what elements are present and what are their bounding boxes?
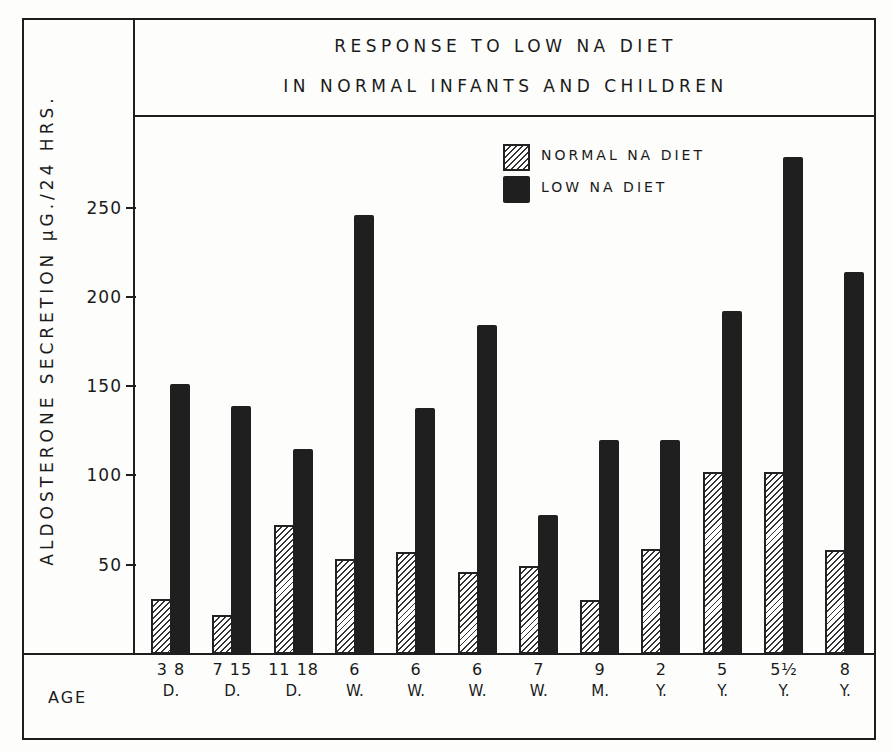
y-tick-mark — [126, 385, 136, 387]
y-tick-label: 50 — [98, 555, 122, 575]
age-unit: Y. — [631, 682, 691, 700]
bar-low-diet — [170, 384, 190, 654]
y-tick-mark — [126, 474, 136, 476]
x-category-label: 5Y. — [693, 660, 753, 700]
bar-normal-diet — [151, 599, 172, 654]
bar-low-diet — [415, 408, 435, 654]
bar-normal-diet — [396, 552, 417, 654]
age-value: 6 — [448, 660, 508, 682]
age-unit: W. — [509, 682, 569, 700]
y-tick-mark — [126, 296, 136, 298]
age-value: 6 — [325, 660, 385, 682]
x-category-label: 6W. — [448, 660, 508, 700]
age-value: 7 — [509, 660, 569, 682]
bar-low-diet — [293, 449, 313, 654]
legend-label-low: LOW NA DIET — [541, 179, 667, 195]
hatched-swatch-icon — [503, 144, 530, 171]
bar-low-diet — [844, 272, 864, 654]
y-axis-label-text: ALDOSTERONE SECRETION μG./24 HRS. — [37, 94, 57, 565]
age-value: 9 — [570, 660, 630, 682]
bar-low-diet — [660, 440, 680, 654]
age-value: 6 — [386, 660, 446, 682]
y-tick: 200 — [82, 296, 136, 310]
x-category-label: 7 15D. — [202, 660, 262, 700]
y-tick-label: 200 — [87, 287, 122, 307]
age-unit: Y. — [815, 682, 875, 700]
y-tick: 50 — [82, 564, 136, 578]
title-divider — [133, 115, 876, 117]
bar-normal-diet — [458, 572, 479, 654]
legend-label-normal: NORMAL NA DIET — [541, 147, 705, 163]
x-category-label: 9M. — [570, 660, 630, 700]
bar-low-diet — [477, 325, 497, 654]
bar-normal-diet — [212, 615, 233, 654]
bar-normal-diet — [274, 525, 295, 654]
x-category-label: 3 8D. — [141, 660, 201, 700]
x-category-label: 2Y. — [631, 660, 691, 700]
bar-low-diet — [599, 440, 619, 654]
bar-low-diet — [783, 157, 803, 654]
y-tick: 100 — [82, 474, 136, 488]
x-axis-label: AGE — [48, 688, 87, 707]
x-category-label: 8Y. — [815, 660, 875, 700]
bar-normal-diet — [580, 600, 601, 654]
age-unit: Y. — [754, 682, 814, 700]
age-unit: Y. — [693, 682, 753, 700]
y-tick: 250 — [82, 207, 136, 221]
y-axis-line — [133, 18, 135, 655]
age-unit: W. — [448, 682, 508, 700]
bar-normal-diet — [519, 566, 540, 654]
x-category-label: 6W. — [325, 660, 385, 700]
y-tick: 150 — [82, 385, 136, 399]
x-category-label: 6W. — [386, 660, 446, 700]
y-tick-label: 100 — [87, 465, 122, 485]
age-unit: W. — [386, 682, 446, 700]
age-value: 5 — [693, 660, 753, 682]
y-tick-label: 150 — [87, 376, 122, 396]
x-category-label: 11 18D. — [264, 660, 324, 700]
solid-swatch-icon — [503, 176, 530, 203]
age-unit: D. — [202, 682, 262, 700]
bar-normal-diet — [641, 549, 662, 654]
bar-normal-diet — [825, 550, 846, 654]
age-unit: D. — [264, 682, 324, 700]
bar-low-diet — [538, 515, 558, 654]
bar-normal-diet — [703, 472, 724, 654]
age-value: 5½ — [754, 660, 814, 682]
y-tick-label: 250 — [87, 198, 122, 218]
age-value: 7 15 — [202, 660, 262, 682]
bar-normal-diet — [764, 472, 785, 654]
age-value: 2 — [631, 660, 691, 682]
chart-title-line-1: RESPONSE TO LOW NA DIET — [135, 36, 876, 56]
age-value: 11 18 — [264, 660, 324, 682]
x-category-label: 5½Y. — [754, 660, 814, 700]
bar-low-diet — [354, 215, 374, 654]
bar-low-diet — [722, 311, 742, 654]
age-unit: D. — [141, 682, 201, 700]
bar-normal-diet — [335, 559, 356, 654]
age-unit: M. — [570, 682, 630, 700]
chart-title-line-2: IN NORMAL INFANTS AND CHILDREN — [135, 76, 876, 96]
age-value: 8 — [815, 660, 875, 682]
x-category-label: 7W. — [509, 660, 569, 700]
age-value: 3 8 — [141, 660, 201, 682]
y-tick-mark — [126, 207, 136, 209]
y-tick-mark — [126, 564, 136, 566]
bar-low-diet — [231, 406, 251, 654]
age-unit: W. — [325, 682, 385, 700]
